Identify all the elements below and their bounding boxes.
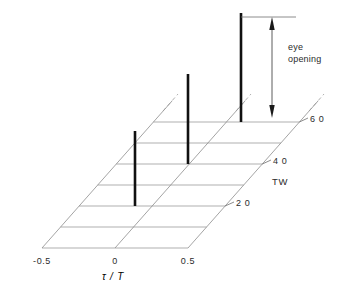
eye-opening-3d-chart: 2 0 4 0 6 0 TW -0.5 0 0.5 τ / T eye ope: [0, 0, 360, 297]
x-tick-label-zero: 0: [112, 256, 118, 266]
eye-opening-label-line2: opening: [288, 54, 321, 64]
depth-axis-ticks: [225, 118, 308, 206]
depth-tick-label-60: 6 0: [310, 114, 324, 124]
eye-opening-label-line1: eye: [288, 42, 303, 52]
x-tick-label-neg-half: -0.5: [33, 256, 51, 266]
depth-tick-label-20: 2 0: [236, 198, 250, 208]
eye-opening-arrowhead-up: [269, 17, 274, 30]
depth-axis-title: TW: [272, 176, 288, 187]
grid-floor: [42, 94, 324, 248]
grid-depth-line-left: [42, 101, 172, 248]
grid-depth-line-right: [188, 101, 318, 248]
eye-opening-arrowhead-down: [269, 105, 274, 118]
data-bars: [135, 13, 241, 206]
x-tick-label-pos-half: 0.5: [181, 256, 195, 266]
depth-tick-label-40: 4 0: [273, 156, 287, 166]
chart-canvas: 2 0 4 0 6 0 TW -0.5 0 0.5 τ / T eye ope: [0, 0, 360, 297]
grid-width-lines: [42, 122, 299, 248]
grid-depth-lines: [42, 101, 318, 248]
eye-opening-annotation: eye opening: [241, 17, 321, 118]
x-axis-title: τ / T: [102, 271, 124, 282]
